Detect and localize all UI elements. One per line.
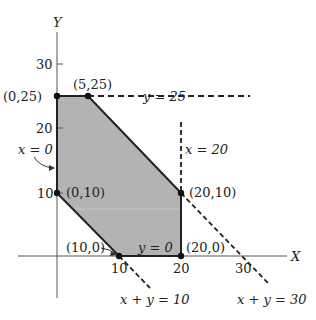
vertex-5-25 [85,93,91,99]
label-point-20-0: (20,0) [186,240,225,255]
feasible-region-diagram: Y X 30 20 10 10 20 30 (0,25) (5,25) (0,1… [0,0,316,320]
line-x-plus-y-30-dashed [181,193,268,283]
label-line-x-0: x = 0 [18,142,53,157]
x-tick-label-10: 10 [111,261,128,276]
x-axis-label: X [290,249,301,264]
vertex-10-0 [116,253,122,259]
y-tick-label-10: 10 [37,186,54,201]
vertex-0-25 [54,93,60,99]
x-tick-label-30: 30 [235,261,252,276]
label-point-0-10: (0,10) [66,185,105,200]
y-tick-label-20: 20 [36,121,53,136]
feasible-region [57,96,181,256]
arrow-x-0-head [49,165,55,171]
label-line-x-plus-y-10: x + y = 10 [120,292,190,307]
label-line-y-25: y = 25 [142,89,186,104]
vertex-0-10 [54,190,60,196]
label-point-0-25: (0,25) [3,89,42,104]
y-tick-label-30: 30 [36,57,53,72]
vertex-20-0 [178,253,184,259]
y-axis-label: Y [53,15,63,30]
label-line-y-0: y = 0 [137,240,173,255]
label-point-20-10: (20,10) [189,185,236,200]
label-point-10-0: (10,0) [66,240,105,255]
label-line-x-plus-y-30: x + y = 30 [237,292,307,307]
vertex-20-10 [178,190,184,196]
label-point-5-25: (5,25) [73,77,112,92]
x-tick-label-20: 20 [173,261,190,276]
label-line-x-20: x = 20 [185,142,228,157]
